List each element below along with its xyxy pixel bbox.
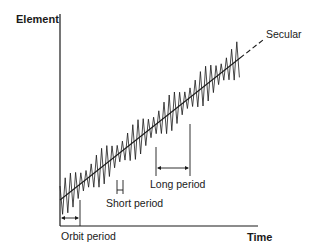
arrow-head-left <box>157 166 161 170</box>
arrow-head-right <box>75 216 79 220</box>
orbit-period-label: Orbit period <box>61 231 116 242</box>
x-axis-label: Time <box>247 232 272 243</box>
short-period-label: Short period <box>106 198 163 209</box>
secular-label: Secular <box>266 29 302 40</box>
arrow-head-left <box>61 216 65 220</box>
secular-trend-dashed <box>240 40 263 58</box>
y-axis-label: Element <box>16 14 59 25</box>
long-period-label: Long period <box>150 179 205 190</box>
arrow-head-right <box>185 166 189 170</box>
